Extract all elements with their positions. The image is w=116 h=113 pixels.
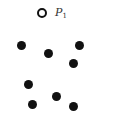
point-label-p1: P1 — [55, 7, 67, 20]
filled-point — [44, 49, 53, 58]
filled-point — [24, 80, 33, 89]
filled-point — [69, 59, 78, 68]
open-point-p1 — [37, 8, 47, 18]
filled-point — [69, 102, 78, 111]
filled-point — [75, 41, 84, 50]
filled-point — [17, 41, 26, 50]
label-subscript: 1 — [62, 12, 66, 20]
filled-point — [28, 100, 37, 109]
point-diagram: P1 — [0, 0, 116, 113]
filled-point — [52, 92, 61, 101]
